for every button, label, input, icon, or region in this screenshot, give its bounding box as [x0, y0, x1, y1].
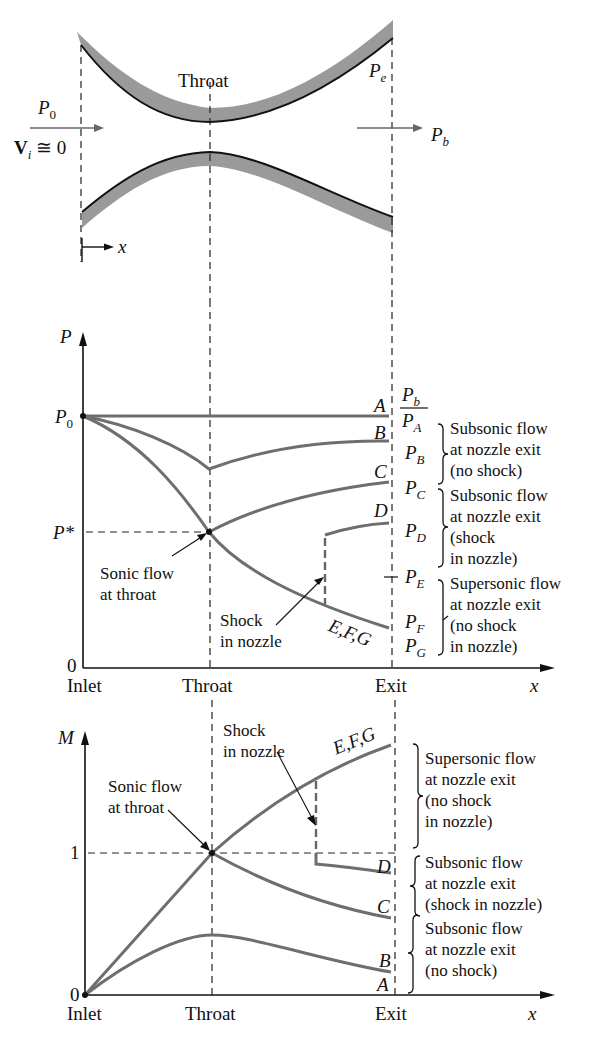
shock-line-1: Shock [223, 720, 285, 741]
pb-subscript: b [414, 394, 421, 409]
pc-symbol: P [405, 477, 417, 498]
inlet-flow-arrow [30, 124, 104, 132]
mach-regime-braces [408, 744, 423, 993]
pressure-shock-annotation: Shockin nozzle [220, 610, 282, 652]
pd-subscript: D [417, 530, 426, 545]
exit-pressure-d: PD [405, 520, 426, 548]
exit-pressure-b: PB [405, 442, 425, 470]
curve-C [212, 853, 391, 918]
exit-pressure-symbol: P [369, 60, 381, 81]
mach-regime-2: Subsonic flowat nozzle exit(shock in noz… [425, 852, 542, 915]
pressure-tick-exit: Exit [375, 675, 407, 696]
mach-tick-inlet: Inlet [67, 1003, 102, 1024]
regime-line: in nozzle) [450, 548, 548, 569]
pb-symbol: P [402, 384, 414, 405]
regime-line: (shock [450, 527, 548, 548]
regime-line: in nozzle) [450, 636, 561, 657]
pc-subscript: C [417, 487, 426, 502]
pressure-regime-braces [438, 424, 448, 655]
mach-regime-1: Supersonic flowat nozzle exit(no shockin… [425, 748, 536, 832]
regime-line: at nozzle exit [425, 769, 536, 790]
mach-curve-label-a: A [377, 974, 389, 995]
inlet-velocity-subscript: i [28, 147, 32, 162]
exit-pressure-c: PC [405, 477, 425, 505]
regime-line: at nozzle exit [450, 439, 548, 460]
regime-line: (no shock) [450, 460, 548, 481]
x-direction-arrow [82, 238, 114, 262]
mach-one-label: 1 [70, 842, 80, 863]
regime-line: Subsonic flow [425, 852, 542, 873]
regime-line: (no shock) [425, 960, 523, 981]
sonic-line-2: at throat [108, 797, 182, 818]
pressure-regime-1: Subsonic flowat nozzle exit(no shock) [450, 418, 548, 481]
pressure-regime-3: Supersonic flowat nozzle exit(no shockin… [450, 573, 561, 657]
nozzle-lower-wall [82, 152, 393, 233]
pb-exit-subscript: B [417, 452, 425, 467]
regime-line: at nozzle exit [425, 939, 523, 960]
pressure-axis-label: P [60, 326, 72, 347]
mach-regime-3: Subsonic flowat nozzle exit(no shock) [425, 918, 523, 981]
exit-pressure-a: PA [402, 410, 422, 438]
sonic-line-2: at throat [100, 584, 174, 605]
regime-line: in nozzle) [425, 811, 536, 832]
regime-line: Subsonic flow [450, 418, 548, 439]
exit-pressure-label: Pe [369, 60, 386, 88]
pressure-tick-inlet: Inlet [67, 675, 102, 696]
pa-symbol: P [402, 410, 414, 431]
sonic-line-1: Sonic flow [108, 776, 182, 797]
nozzle-geometry [77, 20, 393, 233]
regime-line: Supersonic flow [425, 748, 536, 769]
inlet-pressure-subscript: 0 [50, 107, 57, 122]
p0-symbol: P [55, 406, 67, 427]
shock-line-2: in nozzle [220, 631, 282, 652]
pressure-curve-label-b: B [374, 422, 386, 443]
pb-header: Pb [402, 384, 420, 412]
pg-subscript: G [417, 645, 426, 660]
pa-subscript: A [414, 420, 422, 435]
inlet-velocity-symbol: V [14, 137, 28, 158]
regime-line: (no shock [450, 615, 561, 636]
pressure-regime-2: Subsonic flowat nozzle exit(shockin nozz… [450, 485, 548, 569]
regime-line: Subsonic flow [450, 485, 548, 506]
exit-pressure-e: PE [405, 566, 425, 594]
shock-line-1: Shock [220, 610, 282, 631]
sonic-arrow-pressure [172, 533, 207, 556]
mach-tick-throat: Throat [185, 1003, 236, 1024]
shock-arrow-mach [277, 752, 316, 826]
mach-axis-label: M [58, 727, 74, 748]
mach-curve-label-d: D [377, 856, 391, 877]
inlet-velocity-label: Vi ≅ 0 [14, 137, 66, 165]
pe-subscript: E [417, 576, 425, 591]
p0-label: P0 [55, 406, 73, 434]
nozzle-upper-wall [77, 20, 393, 122]
back-pressure-symbol: P [431, 124, 443, 145]
pb-exit-symbol: P [405, 442, 417, 463]
pd-symbol: P [405, 520, 417, 541]
inlet-pressure-symbol: P [38, 97, 50, 118]
pe-symbol: P [405, 566, 417, 587]
pstar-label: P* [53, 522, 74, 543]
pressure-x-label: x [530, 675, 538, 696]
inlet-velocity-value: ≅ 0 [36, 137, 66, 158]
regime-line: Supersonic flow [450, 573, 561, 594]
curve-D [325, 523, 389, 535]
mach-curve-label-c: C [377, 896, 390, 917]
pressure-curve-label-d: D [374, 500, 388, 521]
shock-line-2: in nozzle [223, 741, 285, 762]
exit-pressure-subscript: e [381, 70, 387, 85]
nozzle-flow-diagram: Throat Pe P0 Vi ≅ 0 Pb x P P0 P* 0 Inlet… [0, 0, 599, 1057]
pressure-curve-label-c: C [374, 461, 387, 482]
pf-symbol: P [405, 611, 417, 632]
regime-line: (no shock [425, 790, 536, 811]
regime-line: at nozzle exit [450, 506, 548, 527]
mach-shock-annotation: Shockin nozzle [223, 720, 285, 762]
pg-symbol: P [405, 635, 417, 656]
pressure-curve-label-a: A [374, 395, 386, 416]
pressure-sonic-annotation: Sonic flowat throat [100, 563, 174, 605]
mach-sonic-annotation: Sonic flowat throat [108, 776, 182, 818]
mach-tick-exit: Exit [375, 1003, 407, 1024]
pressure-zero-label: 0 [67, 655, 77, 676]
regime-line: at nozzle exit [450, 594, 561, 615]
regime-line: at nozzle exit [425, 873, 542, 894]
sonic-line-1: Sonic flow [100, 563, 174, 584]
